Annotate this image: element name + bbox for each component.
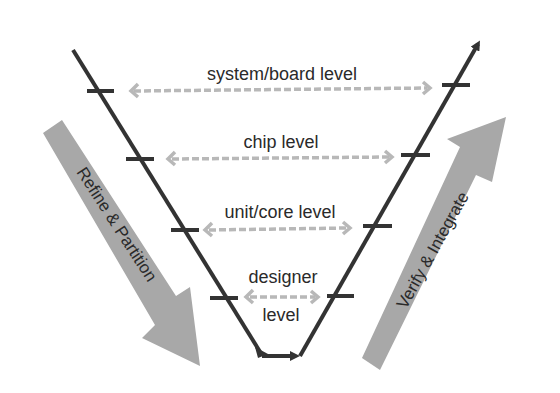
refine-partition-label: Refine & Partition	[73, 164, 161, 285]
v-model-diagram: Refine & Partition Verify & Integrate	[0, 0, 560, 393]
level-label-designer-line2: level	[262, 305, 299, 325]
level-label-chip: chip level	[243, 132, 318, 152]
verify-integrate-arrow: Verify & Integrate	[362, 117, 506, 370]
level-label-unit-core: unit/core level	[224, 202, 335, 222]
level-label-system-board: system/board level	[207, 64, 357, 84]
level-label-designer-line1: designer	[248, 267, 317, 287]
refine-partition-arrow: Refine & Partition	[43, 120, 200, 366]
